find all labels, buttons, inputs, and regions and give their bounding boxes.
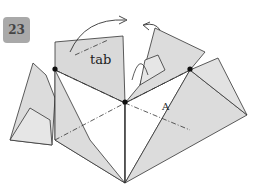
point-a-label: A <box>161 101 170 112</box>
tab-label: tab <box>90 52 111 67</box>
pivot-dot-icon <box>52 66 57 71</box>
origami-diagram: tab A <box>0 0 254 188</box>
